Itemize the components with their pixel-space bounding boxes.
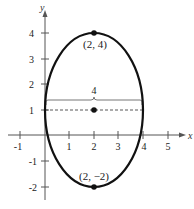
bottom-vertex-label: (2, −2) bbox=[79, 170, 109, 183]
bottom-vertex-point bbox=[91, 184, 97, 190]
center-point bbox=[91, 107, 97, 113]
top-vertex-label: (2, 4) bbox=[83, 38, 107, 51]
x-tick-label: 4 bbox=[142, 141, 147, 152]
x-axis-arrow-icon bbox=[179, 133, 186, 138]
y-tick-label: -2 bbox=[29, 182, 37, 193]
x-tick-label: 5 bbox=[166, 141, 171, 152]
ellipse-diagram: y 4 3 2 1 -1 -2 x -1 1 2 3 4 5 4 bbox=[0, 0, 194, 209]
x-tick-label: 1 bbox=[67, 141, 72, 152]
y-tick-label: 4 bbox=[29, 28, 34, 39]
x-axis-label: x bbox=[187, 130, 193, 141]
x-tick-label: 3 bbox=[116, 141, 121, 152]
x-tick-label: -1 bbox=[14, 141, 22, 152]
y-tick-label: -1 bbox=[29, 156, 37, 167]
width-label: 4 bbox=[92, 85, 97, 96]
y-axis-label: y bbox=[39, 2, 45, 13]
y-tick-label: 1 bbox=[29, 105, 34, 116]
y-tick-label: 3 bbox=[29, 54, 34, 65]
top-vertex-point bbox=[91, 30, 97, 36]
x-tick-label: 2 bbox=[92, 141, 97, 152]
width-brace: 4 bbox=[46, 85, 142, 105]
x-axis: x -1 1 2 3 4 5 bbox=[8, 130, 193, 152]
y-tick-label: 2 bbox=[29, 79, 34, 90]
